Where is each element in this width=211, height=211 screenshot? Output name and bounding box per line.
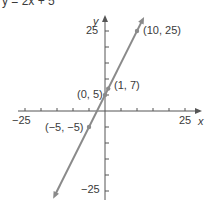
data-point — [87, 125, 91, 129]
data-point — [106, 86, 110, 90]
y-tick-label-25: 25 — [86, 25, 98, 36]
y-tick-label-neg25: −25 — [81, 184, 100, 195]
chart-title: y = 2x + 5 — [2, 0, 55, 7]
x-tick-label-neg25: −25 — [12, 115, 31, 126]
y-axis-arrow-icon — [102, 15, 108, 22]
function-line — [55, 21, 141, 194]
point-label-10-25: (10, 25) — [143, 25, 181, 36]
point-label-neg5-neg5: (−5, −5) — [45, 122, 84, 133]
point-label-1-7: (1, 7) — [114, 80, 140, 91]
x-tick-label-25: 25 — [179, 115, 191, 126]
x-axis-arrow-icon — [195, 108, 202, 114]
point-label-0-5: (0, 5) — [77, 89, 103, 100]
data-point — [103, 93, 107, 97]
data-point — [135, 29, 139, 33]
x-axis-label: x — [198, 116, 204, 127]
